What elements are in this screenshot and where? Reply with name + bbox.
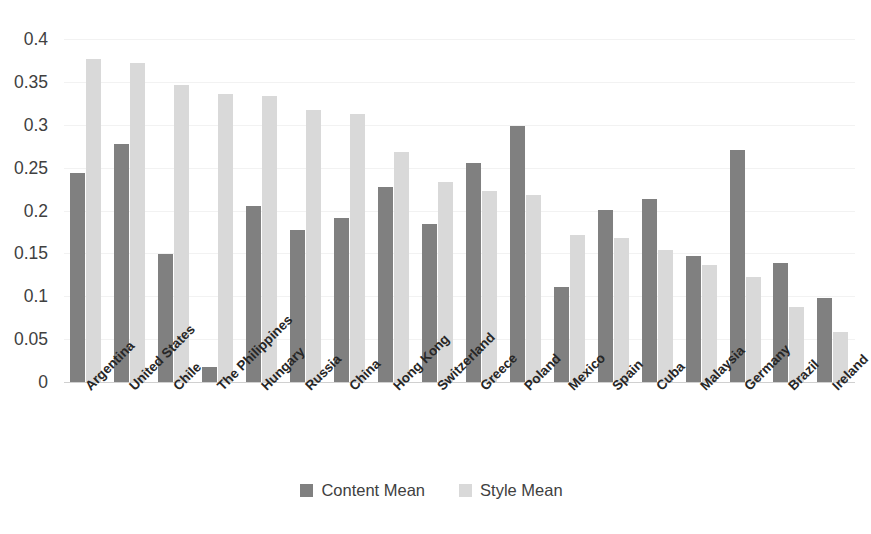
y-axis-tick-label: 0.2 [24,200,48,221]
bar [510,126,525,382]
bar-group [416,39,460,382]
bar [686,256,701,382]
bar-group [196,39,240,382]
bar [350,114,365,382]
bar [658,250,673,382]
bar-group [372,39,416,382]
bar-group [767,39,811,382]
bar-group [547,39,591,382]
bar-group [459,39,503,382]
bar [378,187,393,383]
bar [570,235,585,382]
bar-group [591,39,635,382]
y-axis-tick-label: 0 [38,372,48,393]
bar-group [108,39,152,382]
bar-group [328,39,372,382]
bar [70,173,85,382]
y-axis: 00.050.10.150.20.250.30.350.4 [0,39,56,382]
y-axis-tick-label: 0.05 [14,329,48,350]
y-axis-tick-label: 0.4 [24,29,48,50]
y-axis-tick-label: 0.35 [14,71,48,92]
bar [526,195,541,382]
legend-label: Style Mean [480,482,563,499]
bar [306,110,321,382]
x-axis: ArgentinaUnited StatesChileThe Philippin… [64,383,855,483]
bar [218,94,233,382]
bar-group [811,39,855,382]
bar [86,59,101,382]
bar-group [284,39,328,382]
bar-group [503,39,547,382]
legend-swatch-icon [459,484,472,497]
legend-item[interactable]: Style Mean [459,482,563,499]
y-axis-tick-label: 0.25 [14,157,48,178]
bar [642,199,657,383]
legend-item[interactable]: Content Mean [300,482,425,499]
chart-legend: Content MeanStyle Mean [0,482,863,499]
bar [202,367,217,382]
bar-group [635,39,679,382]
bar-group [679,39,723,382]
legend-swatch-icon [300,484,313,497]
y-axis-tick-label: 0.3 [24,114,48,135]
y-axis-tick-label: 0.15 [14,243,48,264]
bar [394,152,409,382]
legend-label: Content Mean [321,482,425,499]
y-axis-tick-label: 0.1 [24,286,48,307]
bar [130,63,145,382]
bar-group [723,39,767,382]
bar [614,238,629,382]
bar-group [64,39,108,382]
